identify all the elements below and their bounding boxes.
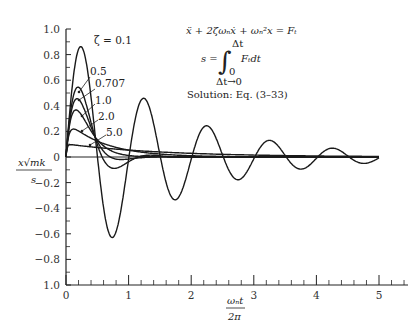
x-tick-label: 2 [188, 289, 195, 301]
x-tick-label: 4 [313, 289, 320, 301]
y-tick-label: −0.6 [35, 228, 61, 240]
y-tick-label: 0 [53, 151, 60, 163]
svg-text:s: s [31, 174, 36, 185]
svg-text:ωₙt: ωₙt [227, 295, 244, 306]
x-axis-label: ωₙt 2π [226, 295, 245, 322]
impulse-definition-lhs: s = [201, 53, 218, 64]
y-tick-label: −0.2 [35, 177, 61, 189]
y-tick-label: 0.2 [43, 125, 60, 137]
x-tick-label: 3 [250, 289, 257, 301]
x-tick-label: 0 [63, 289, 70, 301]
y-tick-label: −0.8 [35, 253, 61, 265]
x-tick-label: 1 [125, 289, 132, 301]
y-tick-label: 0.4 [43, 100, 60, 112]
damping-label: 0.5 [90, 65, 107, 77]
damping-label: 1.0 [95, 94, 112, 106]
solution-reference: Solution: Eq. (3–33) [187, 89, 288, 100]
limit-note: Δt→0 [216, 76, 242, 87]
svg-text:2π: 2π [227, 311, 241, 322]
y-tick-label: 0.8 [43, 49, 60, 61]
integral-upper-limit: Δt [232, 38, 243, 49]
y-tick-label: 0.6 [43, 74, 60, 86]
damping-labels: ζ = 0.10.50.7071.02.05.0 [78, 34, 132, 146]
integrand: Fₜdt [240, 53, 262, 64]
y-tick-label: 1.0 [43, 279, 60, 291]
impulse-response-chart: 1.00.80.60.40.20−0.2−0.4−0.6−0.81.0 0123… [0, 0, 419, 328]
damping-label: ζ = 0.1 [94, 34, 132, 46]
damping-label: 2.0 [98, 110, 115, 122]
equation-of-motion: ẍ + 2ζωₙẋ + ωₙ²x = Fₜ [186, 25, 297, 36]
x-tick-label: 5 [376, 289, 383, 301]
damping-label: 0.707 [95, 77, 125, 89]
damping-label: 5.0 [106, 126, 123, 138]
y-tick-label: 1.0 [43, 23, 60, 35]
equation-annotation: ẍ + 2ζωₙẋ + ωₙ²x = Fₜ s = ∫ Δt 0 Fₜdt Δt… [186, 25, 297, 100]
svg-text:x√mk: x√mk [18, 157, 46, 168]
y-tick-label: −0.4 [35, 202, 61, 214]
